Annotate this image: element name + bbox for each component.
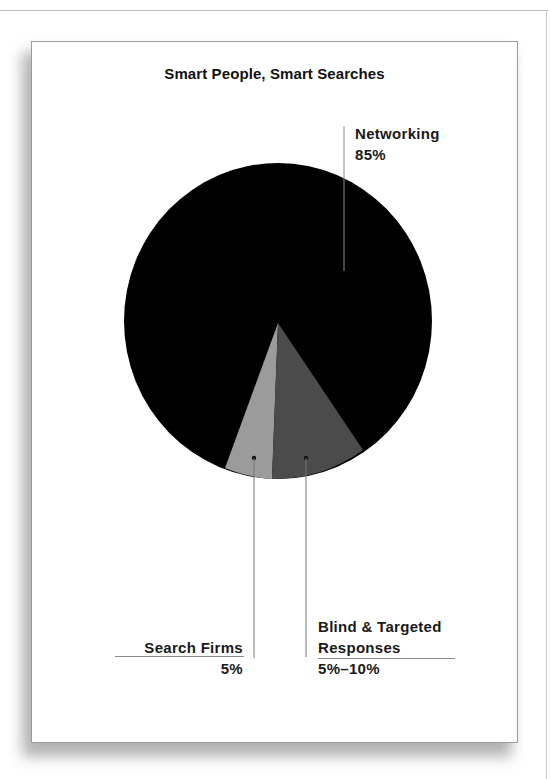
label-search-firms-value: 5% [115,658,243,679]
pie-chart [32,42,519,744]
page-right-rule [546,10,547,779]
label-blind-value: 5%–10% [318,658,442,679]
page-top-rule [0,10,548,11]
label-search-firms: Search Firms 5% [115,637,243,679]
label-blind-name-line1: Blind & Targeted [318,616,442,637]
label-blind-name-line2: Responses [318,637,442,658]
label-networking-value: 85% [355,144,440,165]
label-search-firms-name: Search Firms [115,637,243,658]
label-networking: Networking 85% [355,123,440,165]
label-networking-name: Networking [355,123,440,144]
chart-card: Smart People, Smart Searches Networking … [31,41,518,743]
label-blind-targeted: Blind & Targeted Responses 5%–10% [318,616,442,679]
